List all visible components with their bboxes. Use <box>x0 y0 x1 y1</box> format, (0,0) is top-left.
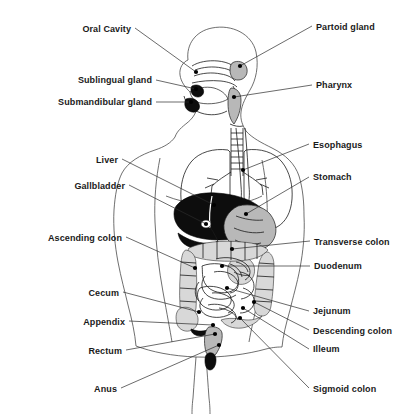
anchor-dot-ascending-colon <box>193 266 197 270</box>
anchor-dot-transverse-colon <box>230 247 234 251</box>
anchor-dot-stomach <box>244 212 248 216</box>
anchor-dot-parotid-gland <box>238 64 242 68</box>
label-sublingual-gland[interactable]: Sublingual gland <box>78 75 152 85</box>
digestive-system-diagram: Oral CavitySublingual glandSubmandibular… <box>0 0 419 416</box>
label-transverse-colon[interactable]: Transverse colon <box>314 237 390 247</box>
label-descending-colon[interactable]: Descending colon <box>313 326 392 336</box>
leader-line-rectum <box>126 334 215 350</box>
larynx <box>230 124 243 126</box>
rectum-shape <box>205 327 223 357</box>
anchor-dot-anus <box>217 343 221 347</box>
label-stomach[interactable]: Stomach <box>313 172 352 182</box>
label-duodenum[interactable]: Duodenum <box>314 261 362 271</box>
leader-line-oral-cavity <box>135 28 196 72</box>
anchor-dot-sublingual-gland <box>194 87 198 91</box>
anchor-dot-submandibular-gland <box>189 100 193 104</box>
label-sigmoid-colon[interactable]: Sigmoid colon <box>313 384 376 394</box>
anchor-dot-duodenum <box>220 264 224 268</box>
anchor-dot-rectum <box>213 332 217 336</box>
anchor-dot-esophagus <box>241 168 245 172</box>
leader-line-liver <box>122 159 214 205</box>
anchor-dot-descending-colon <box>252 300 256 304</box>
label-ascending-colon[interactable]: Ascending colon <box>48 233 122 243</box>
label-gallbladder[interactable]: Gallbladder <box>74 181 125 191</box>
label-pharynx[interactable]: Pharynx <box>316 80 352 90</box>
leader-line-appendix <box>129 321 213 325</box>
label-cecum[interactable]: Cecum <box>88 288 119 298</box>
anus-shape <box>205 353 216 370</box>
ascending-colon-shape <box>180 250 197 317</box>
label-esophagus[interactable]: Esophagus <box>313 140 362 150</box>
leader-line-parotid-gland <box>240 26 312 66</box>
anchor-dot-sigmoid-colon <box>238 316 242 320</box>
label-oral-cavity[interactable]: Oral Cavity <box>82 24 131 34</box>
labels-right-group: Partoid glandPharynxEsophagusStomachTran… <box>313 22 392 394</box>
esophagus-shape <box>236 128 241 207</box>
label-anus[interactable]: Anus <box>94 384 117 394</box>
label-parotid-gland[interactable]: Partoid gland <box>316 22 375 32</box>
leader-line-anus <box>121 345 219 388</box>
pharynx-shape <box>228 88 241 124</box>
anchor-dot-gallbladder <box>204 222 208 226</box>
anchor-dot-oral-cavity <box>194 70 198 74</box>
nasal-turbinate-2 <box>194 73 235 81</box>
sublingual-gland-shape <box>191 85 204 97</box>
leg-left-outline <box>192 357 196 414</box>
bronchus-left <box>205 172 231 195</box>
label-jejunum[interactable]: Jejunum <box>313 306 351 316</box>
descending-colon-shape <box>254 252 274 316</box>
anchor-dot-cecum <box>197 310 201 314</box>
head-outline <box>188 27 257 131</box>
anchor-dot-appendix <box>211 323 215 327</box>
anchor-dot-jejunum <box>225 286 229 290</box>
diagram-page: Oral CavitySublingual glandSubmandibular… <box>0 0 419 416</box>
transverse-colon-shape <box>188 241 268 261</box>
leader-line-esophagus <box>243 144 309 170</box>
leader-line-sublingual-gland <box>156 80 196 89</box>
leader-line-stomach <box>246 177 309 214</box>
labels-left-group: Oral CavitySublingual glandSubmandibular… <box>48 24 152 394</box>
leader-line-ileum <box>243 308 309 349</box>
label-appendix[interactable]: Appendix <box>83 317 125 327</box>
label-liver[interactable]: Liver <box>96 155 118 165</box>
torso-right <box>282 216 304 347</box>
parotid-gland-shape <box>230 61 247 80</box>
label-rectum[interactable]: Rectum <box>88 346 122 356</box>
label-submandibular-gland[interactable]: Submandibular gland <box>58 97 152 107</box>
anchor-dot-pharynx <box>232 95 236 99</box>
anchor-dot-liver <box>212 203 216 207</box>
torso-inner-left <box>155 158 172 342</box>
neck-shoulder-left <box>114 137 175 210</box>
label-ileum[interactable]: Illeum <box>313 344 340 354</box>
leader-line-pharynx <box>234 85 312 97</box>
anchor-dot-ileum <box>241 306 245 310</box>
bronchus-right <box>243 172 269 195</box>
